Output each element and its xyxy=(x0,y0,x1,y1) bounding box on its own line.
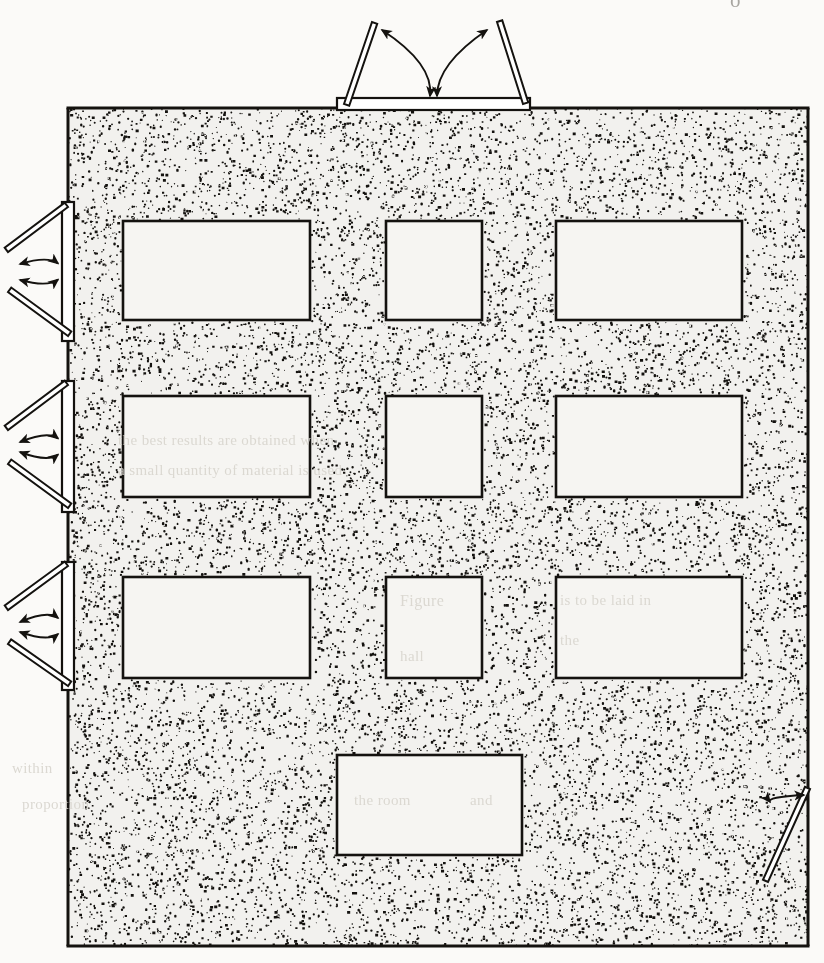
table-r2-c3-outline xyxy=(556,396,742,497)
table-r3-c2 xyxy=(386,577,482,678)
table-bottom-center xyxy=(337,755,522,855)
door-left-double-3-upper-swing-arrow xyxy=(20,615,58,622)
door-leaf-l2-upper-panel xyxy=(5,381,68,430)
door-leaf-l3-upper xyxy=(5,562,68,610)
door-left-double-1-threshold xyxy=(62,202,74,341)
door-left-double-1-upper-swing-arrow xyxy=(20,260,58,264)
door-left-double-2-threshold xyxy=(62,381,74,512)
door-leaf-l2-upper xyxy=(5,381,68,430)
table-r3-c2-outline xyxy=(386,577,482,678)
table-r1-c2-outline xyxy=(386,221,482,320)
floor-plan-drawing xyxy=(0,0,824,963)
door-leaf-top-right-panel xyxy=(497,20,528,104)
door-left-double-2-upper-swing-arrow xyxy=(20,435,58,442)
door-left-double-3-threshold xyxy=(62,562,74,690)
door-leaf-top-left-panel xyxy=(344,22,377,106)
table-r3-c3 xyxy=(556,577,742,678)
table-r3-c1 xyxy=(123,577,310,678)
door-top-right-swing-arrow xyxy=(437,30,487,96)
door-left-double-3-lower-swing-arrow xyxy=(20,632,58,638)
table-r2-c2-outline xyxy=(386,396,482,497)
table-r1-c3-outline xyxy=(556,221,742,320)
table-r3-c1-outline xyxy=(123,577,310,678)
door-left-double-1-lower-swing-arrow xyxy=(20,280,58,284)
table-r3-c3-outline xyxy=(556,577,742,678)
table-r2-c1-outline xyxy=(123,396,310,497)
door-leaf-l1-upper-panel xyxy=(5,203,68,252)
door-leaf-l3-upper-panel xyxy=(5,562,68,610)
table-r1-c3 xyxy=(556,221,742,320)
door-top-left-swing-arrow xyxy=(382,30,430,96)
door-left-double-2-lower-swing-arrow xyxy=(20,452,58,458)
table-bottom-center-outline xyxy=(337,755,522,855)
table-r1-c2 xyxy=(386,221,482,320)
table-r2-c1 xyxy=(123,396,310,497)
table-r1-c1-outline xyxy=(123,221,310,320)
table-r2-c3 xyxy=(556,396,742,497)
table-r2-c2 xyxy=(386,396,482,497)
door-leaf-l1-upper xyxy=(5,203,68,252)
door-leaf-top-left xyxy=(344,22,377,106)
door-top-threshold xyxy=(337,98,530,110)
door-leaf-top-right xyxy=(497,20,528,104)
table-r1-c1 xyxy=(123,221,310,320)
